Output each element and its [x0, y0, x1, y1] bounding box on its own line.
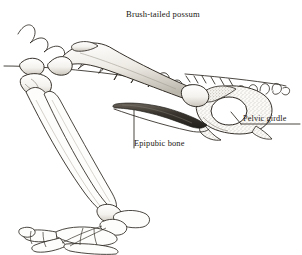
- femoral-head: [181, 85, 208, 107]
- label-epipubic-bone: Epipubic bone: [134, 139, 185, 148]
- digit-tip: [19, 227, 35, 237]
- femur-distal-condyle: [48, 57, 73, 76]
- phalanx-distal-row: [64, 244, 118, 255]
- tibia: [26, 87, 109, 214]
- figure-title: Brush-tailed possum: [126, 9, 200, 19]
- anatomical-figure: Brush-tailed possum Epipubic bone Pelvic…: [0, 0, 302, 255]
- label-pelvic-girdle: Pelvic girdle: [243, 114, 287, 123]
- epipubic-bone: [113, 103, 207, 128]
- caudal-tail-tip: [282, 87, 290, 95]
- acetabulum: [211, 97, 247, 125]
- foot-group: [19, 210, 150, 254]
- caudal-vertebra-3: [260, 84, 269, 94]
- caudal-vertebra-4: [272, 83, 281, 94]
- epipubic-bone-group: [113, 103, 209, 132]
- patella: [20, 58, 44, 75]
- lower-leg-group: [26, 87, 121, 222]
- dorsal-contour-line: [185, 74, 286, 86]
- skeleton-illustration: [0, 0, 302, 255]
